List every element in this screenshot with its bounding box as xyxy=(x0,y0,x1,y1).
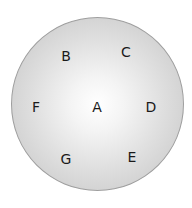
label-b: B xyxy=(61,49,71,63)
label-a: A xyxy=(92,100,102,114)
label-c: C xyxy=(121,45,131,59)
label-g: G xyxy=(61,152,72,166)
label-f: F xyxy=(32,100,40,114)
label-e: E xyxy=(128,150,137,164)
label-d: D xyxy=(146,100,157,114)
